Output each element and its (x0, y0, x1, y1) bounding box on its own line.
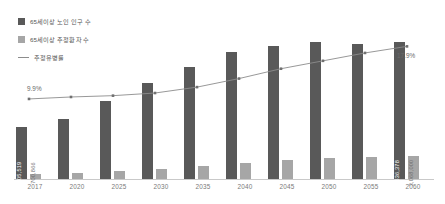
bar-elderly-population[interactable]: 18,536,378 (394, 42, 405, 179)
bar-group (266, 16, 308, 179)
bar-estimated-patients[interactable] (72, 173, 83, 179)
legend-square-light-icon (18, 36, 25, 43)
x-axis-tick-label: 2030 (140, 183, 182, 190)
bar-elderly-population[interactable] (142, 83, 153, 179)
x-axis-tick-label: 2045 (266, 183, 308, 190)
bar-elderly-population[interactable] (58, 119, 69, 179)
bar-elderly-population[interactable] (226, 52, 237, 179)
legend-square-dark-icon (18, 18, 25, 25)
bar-group (98, 16, 140, 179)
bar-value-label: 700,866 (30, 162, 36, 184)
bar-estimated-patients[interactable] (240, 163, 251, 179)
bar-estimated-patients[interactable]: 3,068,000 (408, 156, 419, 179)
bar-group (308, 16, 350, 179)
bar-elderly-population[interactable] (310, 42, 321, 179)
bar-group (182, 16, 224, 179)
bar-elderly-population[interactable] (268, 46, 279, 179)
bar-estimated-patients[interactable] (366, 157, 377, 179)
x-axis-tick-label: 2020 (56, 183, 98, 190)
x-axis-tick-label: 2040 (224, 183, 266, 190)
legend-item-label: 추정유병률 (34, 53, 65, 62)
legend-item-label: 65세이상 노인 인구 수 (30, 17, 91, 26)
x-axis-tick-label: 2035 (182, 183, 224, 190)
bar-elderly-population[interactable] (352, 44, 363, 179)
prevalence-value-label: 9.9% (27, 85, 42, 92)
x-axis-line (14, 179, 434, 180)
legend-item-estimated-patients[interactable]: 65세이상 추정환자 수 (18, 32, 91, 46)
bar-group (140, 16, 182, 179)
legend-item-estimated-prevalence[interactable]: 추정유병률 (18, 50, 91, 64)
legend-line-icon (18, 54, 29, 61)
bar-estimated-patients[interactable] (114, 171, 125, 179)
bar-estimated-patients[interactable]: 700,866 (30, 174, 41, 179)
legend-item-label: 65세이상 추정환자 수 (30, 35, 90, 44)
bar-estimated-patients[interactable] (198, 166, 209, 179)
bar-elderly-population[interactable] (100, 101, 111, 179)
bar-group (350, 16, 392, 179)
x-axis-tick-label: 2017 (14, 183, 56, 190)
chart-legend: 65세이상 노인 인구 수 65세이상 추정환자 수 추정유병률 (18, 14, 91, 68)
x-axis-tick-label: 2050 (308, 183, 350, 190)
bar-estimated-patients[interactable] (324, 158, 335, 179)
x-axis-tick-label: 2025 (98, 183, 140, 190)
bar-group: 18,536,3783,068,000 (392, 16, 434, 179)
legend-item-elderly-population[interactable]: 65세이상 노인 인구 수 (18, 14, 91, 28)
prevalence-value-label: 17.9% (397, 52, 415, 59)
bar-elderly-population[interactable]: 7,005,519 (16, 127, 27, 179)
bar-group (224, 16, 266, 179)
bar-elderly-population[interactable] (184, 67, 195, 179)
x-axis-tick-label: 2055 (350, 183, 392, 190)
bar-estimated-patients[interactable] (156, 169, 167, 179)
elderly-population-chart: 65세이상 노인 인구 수 65세이상 추정환자 수 추정유병률 7,005,5… (0, 0, 445, 204)
bar-estimated-patients[interactable] (282, 160, 293, 179)
x-axis-labels: 2017202020252030203520402045205020552060 (14, 183, 434, 199)
x-axis-tick-label: 2060 (392, 183, 434, 190)
